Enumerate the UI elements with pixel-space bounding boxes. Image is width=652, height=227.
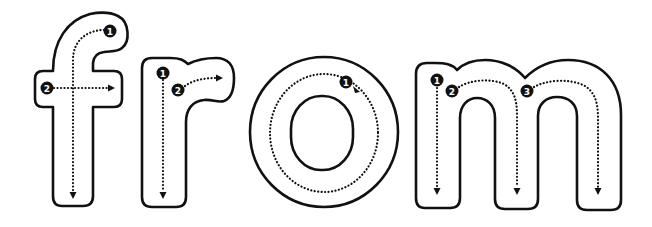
badge-label: 2 <box>44 84 50 94</box>
letter-r: 1 2 <box>142 58 234 207</box>
stroke-number-badge: 1 <box>340 76 353 89</box>
badge-label: 2 <box>449 87 455 97</box>
letter-m-outline <box>416 60 621 210</box>
letter-tracing-worksheet: 1 2 1 2 1 <box>0 0 652 227</box>
letter-f: 1 2 <box>35 13 128 206</box>
badge-label: 2 <box>175 86 181 96</box>
letter-r-outline <box>142 58 234 207</box>
letter-o-inner-outline <box>291 96 353 170</box>
stroke-number-badge: 2 <box>172 84 185 97</box>
letter-m: 1 2 3 <box>416 60 621 210</box>
stroke-number-badge: 2 <box>41 82 54 95</box>
stroke-number-badge: 1 <box>157 67 170 80</box>
stroke-number-badge: 1 <box>104 25 117 38</box>
stroke-number-badge: 2 <box>446 85 459 98</box>
badge-label: 3 <box>524 87 530 97</box>
badge-label: 1 <box>107 27 113 37</box>
letter-f-outline <box>35 13 128 206</box>
letter-o: 1 <box>250 57 398 207</box>
badge-label: 1 <box>434 76 440 86</box>
stroke-number-badge: 3 <box>521 85 534 98</box>
stroke-number-badge: 1 <box>431 74 444 87</box>
badge-label: 1 <box>160 69 166 79</box>
badge-label: 1 <box>343 78 349 88</box>
